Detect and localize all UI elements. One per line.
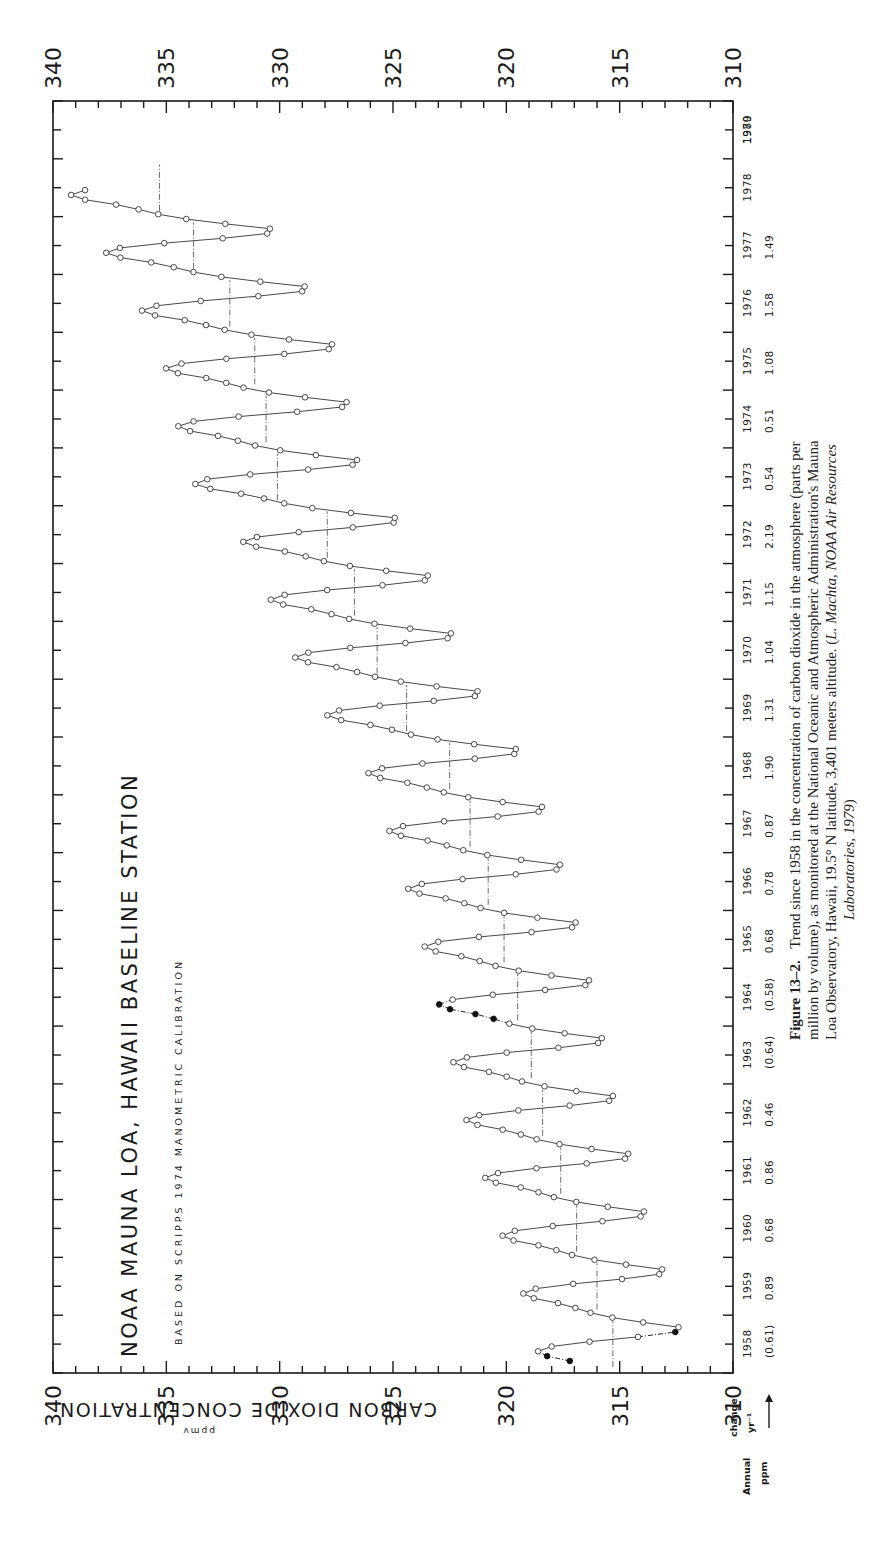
data-point (253, 544, 259, 550)
ppm-tick-label-top: 325 (381, 47, 406, 89)
data-point (280, 602, 286, 608)
data-point (308, 607, 314, 613)
data-point (448, 631, 454, 637)
series-segment (515, 1226, 553, 1231)
series-segment (509, 1024, 532, 1029)
series-segment (591, 1313, 613, 1318)
series-segment (576, 1091, 613, 1096)
series-segment (339, 706, 380, 711)
data-point (163, 366, 169, 372)
estimated-data-point (447, 1006, 453, 1012)
data-point (329, 342, 335, 348)
data-point (350, 462, 356, 468)
data-point (478, 905, 484, 911)
year-tick-label: 1965 (741, 925, 753, 954)
caption-line-4: Laboratories, 1979) (841, 799, 858, 921)
data-point (610, 1315, 616, 1321)
series-segment (570, 1101, 609, 1106)
year-tick-label: 1967 (741, 809, 753, 838)
series-segment (474, 744, 516, 749)
data-point (325, 713, 331, 719)
data-point (573, 920, 579, 926)
annual-change-value: 1.58 (763, 293, 775, 318)
data-point (425, 573, 431, 579)
data-point (450, 997, 456, 1003)
data-point (512, 1228, 518, 1234)
data-point (586, 978, 592, 984)
data-point (451, 1059, 457, 1065)
data-point (321, 558, 327, 564)
y-axis-units: ppmv (181, 1426, 215, 1436)
data-point (556, 1045, 562, 1051)
series-segment (537, 1139, 560, 1144)
data-point (223, 380, 229, 386)
series-segment (223, 234, 267, 239)
data-point (555, 1300, 561, 1306)
series-segment (225, 330, 252, 335)
year-tick-label: 1960 (741, 1214, 753, 1243)
series-segment (450, 1009, 475, 1014)
data-point (605, 1204, 611, 1210)
data-point (531, 1296, 537, 1302)
data-point (306, 650, 312, 656)
series-segment (403, 821, 444, 826)
series-segment (612, 1318, 643, 1323)
data-point (417, 891, 423, 897)
data-point (441, 790, 447, 796)
caption-text-1: Trend since 1958 in the concentration of… (787, 442, 804, 949)
year-tick-label: 1968 (741, 751, 753, 780)
data-point (344, 399, 350, 405)
series-segment (283, 605, 311, 610)
year-tick-label: 1958 (741, 1329, 753, 1358)
data-point (305, 467, 311, 473)
data-point (542, 987, 548, 993)
data-point (589, 1146, 595, 1152)
series-segment (257, 532, 299, 537)
data-point (247, 472, 253, 478)
series-segment (312, 508, 351, 513)
data-point (235, 438, 241, 444)
plot-area-border (53, 101, 733, 1373)
data-point (635, 1334, 641, 1340)
series-segment (592, 1149, 629, 1154)
data-point (136, 207, 142, 213)
data-point (82, 187, 88, 193)
data-point (676, 1324, 682, 1330)
data-point (542, 1084, 548, 1090)
series-segment (186, 219, 225, 224)
data-point (600, 1218, 606, 1224)
data-point (462, 900, 468, 906)
data-point (348, 510, 354, 516)
data-point (82, 197, 88, 203)
data-point (444, 843, 450, 849)
annual-change-value: 1.90 (763, 755, 775, 780)
data-point (619, 1276, 625, 1282)
series-segment (324, 561, 350, 566)
data-point (254, 534, 260, 540)
series-segment (284, 349, 328, 354)
data-point (258, 279, 264, 285)
data-point (420, 761, 426, 767)
series-segment (590, 1337, 639, 1342)
data-point (286, 337, 292, 343)
data-point (310, 505, 316, 511)
year-tick-label: 1980 (741, 115, 753, 144)
data-point (372, 621, 378, 627)
data-point (236, 414, 242, 420)
series-segment (375, 624, 411, 629)
data-point (222, 327, 228, 333)
series-segment (156, 301, 200, 306)
data-point (570, 1281, 576, 1287)
ppm-tick-label-bottom: 315 (608, 1385, 633, 1427)
data-point (215, 433, 221, 439)
data-point (407, 626, 413, 632)
caption-figure-label: Figure 13–2. (787, 960, 803, 1040)
data-point (493, 1180, 499, 1186)
data-point (554, 1247, 560, 1253)
data-point (338, 717, 344, 723)
data-point (403, 640, 409, 646)
series-segment (155, 315, 185, 320)
data-point (305, 660, 311, 666)
annual-change-value: 0.78 (763, 871, 775, 896)
series-segment (545, 1086, 577, 1091)
